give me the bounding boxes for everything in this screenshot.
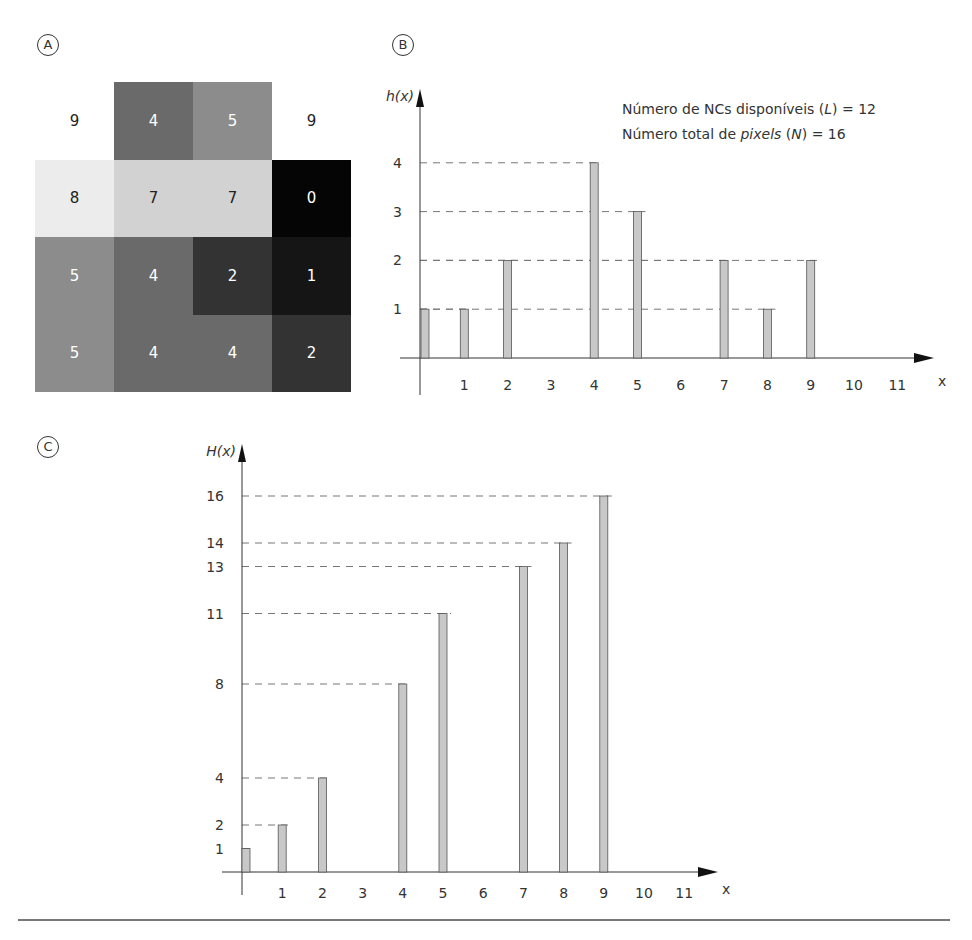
x-tick-label: 11 [675, 885, 693, 901]
y-tick-label: 8 [215, 676, 224, 692]
bar [318, 778, 326, 872]
x-tick-label: 2 [318, 885, 327, 901]
bar [519, 567, 527, 873]
x-tick-label: 4 [398, 885, 407, 901]
y-axis-arrow-icon [238, 444, 246, 462]
x-tick-label: 3 [358, 885, 367, 901]
y-axis-label: H(x) [206, 443, 236, 459]
bottom-rule [18, 919, 950, 921]
y-tick-label: 4 [215, 770, 224, 786]
y-tick-label: 16 [206, 488, 224, 504]
y-tick-label: 1 [215, 841, 224, 857]
x-tick-label: 10 [635, 885, 653, 901]
y-tick-label: 2 [215, 817, 224, 833]
x-tick-label: 8 [559, 885, 568, 901]
bar [399, 684, 407, 872]
y-tick-label: 11 [206, 606, 224, 622]
x-tick-label: 9 [599, 885, 608, 901]
x-tick-label: 1 [278, 885, 287, 901]
y-tick-label: 14 [206, 535, 224, 551]
bar [278, 825, 286, 872]
x-axis-arrow-icon [698, 867, 718, 877]
x-tick-label: 6 [479, 885, 488, 901]
x-tick-label: 7 [519, 885, 528, 901]
bar [439, 614, 447, 873]
bar [600, 496, 608, 872]
bar [560, 543, 568, 872]
x-tick-label: 5 [439, 885, 448, 901]
x-axis-label: x [722, 881, 730, 897]
cumulative-histogram-chart: 1248111314161234567891011xH(x) [0, 0, 972, 940]
y-tick-label: 13 [206, 559, 224, 575]
bar [242, 849, 250, 873]
